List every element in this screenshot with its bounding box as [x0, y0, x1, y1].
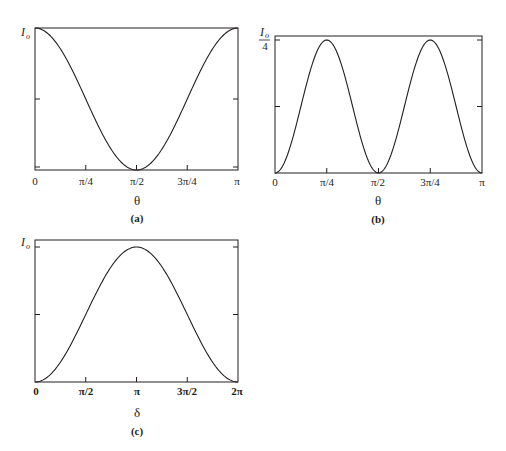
y-axis-sub-c: o	[26, 242, 30, 251]
x-tick-label-c-1: π/2	[79, 385, 94, 397]
x-tick-label-c-4: 2π	[231, 385, 243, 397]
x-tick-label-a-1: π/4	[79, 175, 94, 187]
x-axis-label-a: θ	[134, 193, 140, 208]
x-tick-label-a-0: 0	[32, 175, 38, 187]
x-tick-label-b-1: π/4	[320, 176, 335, 188]
plot-frame-b	[275, 36, 482, 173]
x-tick-label-b-0: 0	[272, 176, 278, 188]
y-ticks-b	[275, 40, 482, 107]
x-tick-label-a-4: π	[234, 175, 240, 187]
x-ticks-c	[86, 377, 188, 382]
x-tick-label-c-0: 0	[33, 385, 39, 397]
panel-a: I o 0 π/4 π/2 3π/4 π θ (a)	[20, 25, 240, 225]
y-ticks-a	[35, 99, 238, 167]
panel-caption-b: (b)	[371, 213, 385, 226]
x-ticks-a	[86, 165, 188, 170]
curve-c	[35, 247, 238, 382]
x-tick-label-b-2: π/2	[371, 176, 385, 188]
panel-caption-c: (c)	[131, 425, 144, 438]
x-tick-label-c-2: π	[134, 385, 140, 397]
plot-frame-c	[35, 240, 238, 382]
x-axis-label-c: δ	[134, 405, 140, 420]
y-ticks-c	[35, 247, 238, 315]
x-axis-label-b: θ	[375, 193, 381, 208]
curve-b	[275, 40, 482, 173]
panel-b: I o 4 0 π/4 π/2 3π/4 π θ (b)	[259, 25, 485, 226]
x-tick-label-a-2: π/2	[130, 175, 144, 187]
y-axis-den-b: 4	[262, 40, 268, 52]
x-tick-label-a-3: 3π/4	[177, 175, 197, 187]
x-ticks-b	[327, 168, 431, 173]
curve-a	[35, 28, 238, 170]
x-tick-label-b-4: π	[479, 176, 485, 188]
plot-frame-a	[35, 28, 238, 170]
panel-c: I o 0 π/2 π 3π/2 2π δ (c)	[20, 235, 243, 438]
figure: I o 0 π/4 π/2 3π/4 π θ (a) I o 4 0 π/4 π…	[0, 0, 506, 451]
y-axis-sub-b: o	[265, 31, 269, 40]
panel-caption-a: (a)	[131, 212, 144, 225]
y-axis-sub-a: o	[26, 32, 30, 41]
x-tick-label-c-3: 3π/2	[177, 385, 198, 397]
x-tick-label-b-3: 3π/4	[420, 176, 440, 188]
